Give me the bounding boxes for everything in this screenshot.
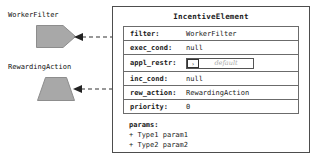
external-node-label-rewarding-action: RewardingAction [8, 63, 71, 71]
list-item-param-2: + Type2 param2 [129, 140, 299, 150]
params-compartment: params: + Type1 param1 + Type2 param2 [129, 120, 299, 150]
attribute-key-rew-action: rew_action: [130, 89, 186, 97]
attribute-key-exec-cond: exec_cond: [130, 44, 186, 52]
class-title: IncentiveElement [113, 7, 309, 26]
table-row-exec-cond[interactable]: exec_cond: null [124, 41, 298, 55]
attribute-key-appl-restr: appl_restr: [130, 59, 186, 67]
chevron-right-icon[interactable]: › [187, 59, 199, 68]
external-node-shape-rewarding-action[interactable] [37, 77, 75, 101]
table-row-priority[interactable]: priority: 0 [124, 100, 298, 114]
attribute-value-priority: 0 [186, 103, 190, 111]
attribute-table: filter: WorkerFilter exec_cond: null app… [123, 26, 299, 114]
appl-restr-placeholder: default [199, 59, 253, 67]
params-title: params: [129, 120, 299, 130]
pentagon-shape-icon [36, 25, 76, 48]
class-box-incentive-element[interactable]: IncentiveElement filter: WorkerFilter ex… [112, 6, 310, 153]
table-row-inc-cond[interactable]: inc_cond: null [124, 72, 298, 86]
external-node-shape-worker-filter[interactable] [36, 25, 76, 48]
attribute-key-inc-cond: inc_cond: [130, 75, 186, 83]
attribute-value-exec-cond: null [186, 44, 203, 52]
external-node-label-worker-filter: WorkerFilter [8, 11, 59, 19]
attribute-key-priority: priority: [130, 103, 186, 111]
table-row-filter[interactable]: filter: WorkerFilter [124, 27, 298, 41]
trapezoid-shape-icon [37, 77, 75, 101]
table-row-appl-restr[interactable]: appl_restr: › default [124, 55, 298, 72]
attribute-value-inc-cond: null [186, 75, 203, 83]
appl-restr-combo-box[interactable]: › default [186, 58, 254, 69]
table-row-rew-action[interactable]: rew_action: RewardingAction [124, 86, 298, 100]
list-item-param-1: + Type1 param1 [129, 130, 299, 140]
attribute-value-filter: WorkerFilter [186, 30, 237, 38]
attribute-key-filter: filter: [130, 30, 186, 38]
attribute-value-rew-action: RewardingAction [186, 89, 249, 97]
